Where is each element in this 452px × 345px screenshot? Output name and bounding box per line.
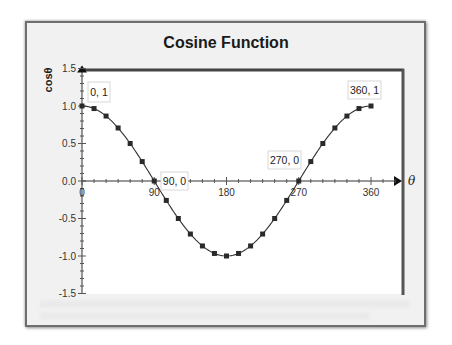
data-point-marker bbox=[104, 114, 109, 119]
data-point-marker bbox=[152, 179, 157, 184]
data-point-marker bbox=[369, 104, 374, 109]
y-tick-label: -1.5 bbox=[59, 288, 77, 299]
y-tick-label: 1.5 bbox=[62, 63, 76, 74]
x-tick-label: 0 bbox=[79, 187, 85, 198]
data-point-marker bbox=[260, 232, 265, 237]
x-tick-label: 180 bbox=[218, 187, 235, 198]
data-label: 360, 1 bbox=[350, 84, 379, 96]
plot-area: 1.51.00.50.0-0.5-1.0-1.5090180270360θ 0,… bbox=[0, 0, 452, 345]
y-tick-label: 0.5 bbox=[62, 138, 76, 149]
data-point-marker bbox=[224, 254, 229, 259]
y-tick-label: 1.0 bbox=[62, 101, 76, 112]
data-point-marker bbox=[284, 198, 289, 203]
data-label: 90, 0 bbox=[163, 175, 187, 187]
data-point-marker bbox=[272, 216, 277, 221]
data-point-marker bbox=[176, 216, 181, 221]
y-tick-label: 0.0 bbox=[62, 176, 76, 187]
data-point-marker bbox=[116, 125, 121, 130]
data-point-marker bbox=[212, 251, 217, 256]
data-label: 270, 0 bbox=[270, 154, 299, 166]
data-point-marker bbox=[140, 159, 145, 164]
y-tick-label: -1.0 bbox=[59, 251, 77, 262]
x-tick-label: 270 bbox=[290, 187, 307, 198]
x-tick-label: 360 bbox=[363, 187, 380, 198]
data-label: 0, 1 bbox=[90, 86, 108, 98]
data-point-marker bbox=[200, 243, 205, 248]
data-point-marker bbox=[236, 251, 241, 256]
data-point-marker bbox=[296, 179, 301, 184]
data-point-marker bbox=[164, 198, 169, 203]
data-point-marker bbox=[332, 125, 337, 130]
x-axis-label: θ bbox=[408, 174, 416, 188]
data-point-marker bbox=[92, 106, 97, 111]
data-point-marker bbox=[248, 243, 253, 248]
data-point-marker bbox=[80, 104, 85, 109]
data-point-marker bbox=[320, 141, 325, 146]
data-point-marker bbox=[128, 141, 133, 146]
y-tick-label: -0.5 bbox=[59, 213, 77, 224]
data-point-marker bbox=[308, 159, 313, 164]
data-point-marker bbox=[356, 106, 361, 111]
data-point-marker bbox=[344, 114, 349, 119]
data-point-marker bbox=[188, 232, 193, 237]
